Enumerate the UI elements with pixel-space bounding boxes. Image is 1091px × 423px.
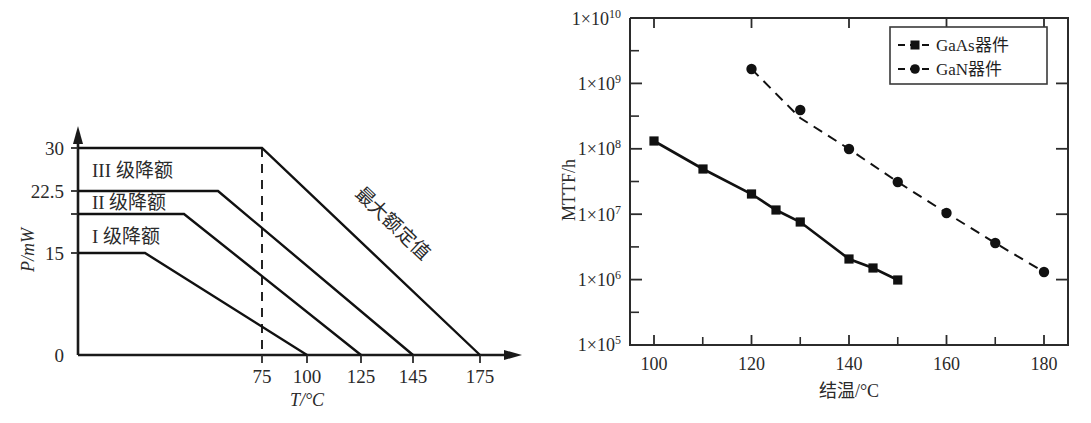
zone-label-I: I 级降额 bbox=[92, 226, 160, 247]
data-point-gan bbox=[795, 105, 805, 115]
right-y-tick-labels: 1×1010 1×109 1×108 1×107 1×106 1×105 bbox=[572, 7, 621, 355]
derating-curve-svg: 30 22.5 15 0 P/mW 75 100 125 145 175 T/°… bbox=[0, 0, 545, 423]
data-point-gan bbox=[990, 238, 1000, 248]
x-tick-label-145: 145 bbox=[399, 366, 428, 387]
legend: GaAs器件 GaN器件 bbox=[890, 27, 1047, 84]
right-x-axis-title: 结温/°C bbox=[819, 381, 879, 401]
legend-label-gaas: GaAs器件 bbox=[936, 36, 1009, 55]
curve-derating-III bbox=[78, 191, 413, 355]
left-y-axis-title: P/mW bbox=[18, 226, 38, 273]
data-point-gan bbox=[893, 177, 903, 187]
x-label-180: 180 bbox=[1031, 354, 1058, 374]
legend-marker-circle-icon bbox=[910, 64, 920, 74]
left-chart-panel: 30 22.5 15 0 P/mW 75 100 125 145 175 T/°… bbox=[0, 0, 545, 423]
data-point-gaas bbox=[796, 217, 805, 226]
y-tick-label-30: 30 bbox=[45, 138, 64, 159]
zone-label-III: III 级降额 bbox=[92, 160, 173, 181]
y-label-1e9: 1×109 bbox=[578, 72, 621, 94]
data-point-gaas bbox=[893, 275, 902, 284]
x-label-100: 100 bbox=[641, 354, 668, 374]
mttf-chart-svg: 1×1010 1×109 1×108 1×107 1×106 1×105 MTT… bbox=[545, 0, 1091, 423]
right-chart-panel: 1×1010 1×109 1×108 1×107 1×106 1×105 MTT… bbox=[545, 0, 1091, 423]
y-tick-label-22p5: 22.5 bbox=[31, 181, 64, 202]
right-y-axis-title: MTTF/h bbox=[559, 159, 579, 221]
left-x-axis-title: T/°C bbox=[290, 390, 325, 410]
data-point-gan bbox=[941, 208, 951, 218]
legend-marker-square-icon bbox=[911, 41, 920, 50]
y-axis-arrow bbox=[73, 126, 83, 144]
data-point-gan bbox=[1039, 267, 1049, 277]
x-tick-label-100: 100 bbox=[293, 366, 322, 387]
data-point-gaas bbox=[771, 205, 780, 214]
y-tick-label-15: 15 bbox=[45, 243, 64, 264]
y-label-1e10: 1×1010 bbox=[572, 7, 621, 29]
y-label-1e7: 1×107 bbox=[578, 203, 621, 225]
x-axis-arrow bbox=[504, 350, 522, 360]
y-label-1e6: 1×106 bbox=[578, 268, 621, 290]
series-markers-gan bbox=[746, 64, 1049, 277]
data-point-gan bbox=[746, 64, 756, 74]
x-label-160: 160 bbox=[933, 354, 960, 374]
data-point-gaas bbox=[747, 189, 756, 198]
data-point-gaas bbox=[868, 263, 877, 272]
curve-derating-I bbox=[78, 253, 307, 355]
x-tick-label-125: 125 bbox=[347, 366, 376, 387]
legend-label-gan: GaN器件 bbox=[936, 60, 1002, 79]
figure-root: 30 22.5 15 0 P/mW 75 100 125 145 175 T/°… bbox=[0, 0, 1091, 423]
data-point-gan bbox=[844, 144, 854, 154]
y-label-1e8: 1×108 bbox=[578, 137, 621, 159]
data-point-gaas bbox=[649, 136, 658, 145]
diagonal-label-max-rating: 最大额定值 bbox=[351, 183, 434, 264]
x-tick-label-175: 175 bbox=[466, 366, 495, 387]
y-tick-label-0: 0 bbox=[55, 345, 65, 366]
zone-label-II: II 级降额 bbox=[92, 192, 166, 213]
y-label-1e5: 1×105 bbox=[578, 333, 621, 355]
x-label-120: 120 bbox=[738, 354, 765, 374]
x-label-140: 140 bbox=[836, 354, 863, 374]
x-tick-label-75: 75 bbox=[253, 366, 272, 387]
data-point-gaas bbox=[844, 254, 853, 263]
data-point-gaas bbox=[698, 164, 707, 173]
